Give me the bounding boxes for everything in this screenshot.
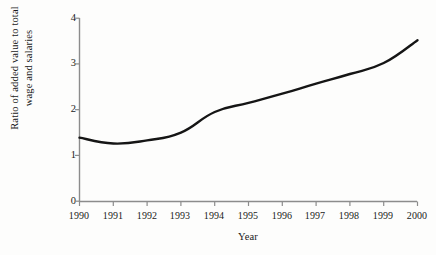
plot-area [0,0,436,255]
chart-figure: Ratio of added value to total wage and s… [0,0,436,255]
data-line-series-1 [80,40,418,144]
